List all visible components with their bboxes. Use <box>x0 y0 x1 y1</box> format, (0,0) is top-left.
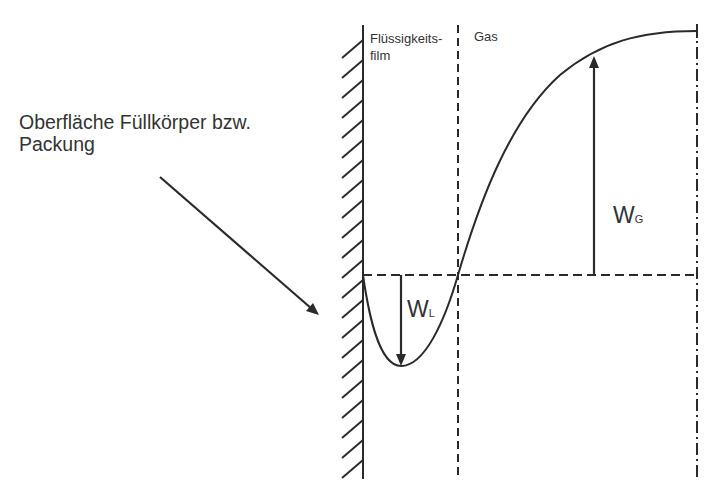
wg-arrowhead-icon <box>589 56 599 68</box>
wg-symbol-main: W <box>613 202 635 228</box>
surface-label-line1: Oberfläche Füllkörper bzw. <box>19 111 251 133</box>
liquid-film-label: Flüssigkeits- film <box>370 30 442 64</box>
liquid-film-label-line2: film <box>370 47 442 64</box>
wall-hatching <box>342 40 363 478</box>
surface-label: Oberfläche Füllkörper bzw. Packung <box>19 111 251 156</box>
gas-label: Gas <box>474 30 498 45</box>
wg-symbol-sub: G <box>635 213 644 225</box>
wl-symbol: WL <box>407 296 435 322</box>
wg-symbol: WG <box>613 202 643 228</box>
surface-label-line2: Packung <box>19 133 251 155</box>
wl-symbol-main: W <box>407 296 429 322</box>
wl-arrowhead-icon <box>396 354 406 366</box>
diagram-canvas <box>0 0 718 497</box>
wl-symbol-sub: L <box>429 307 435 319</box>
liquid-film-label-line1: Flüssigkeits- <box>370 30 442 47</box>
surface-pointer-arrow <box>160 177 312 309</box>
